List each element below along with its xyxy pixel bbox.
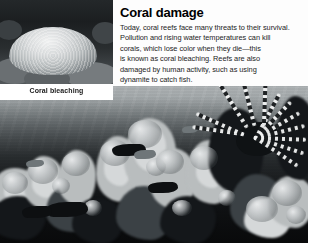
coral-polyp-texture <box>2 172 28 194</box>
page-margin-right <box>308 0 319 250</box>
body-line: Pollution and rising water temperatures … <box>120 33 300 43</box>
body-line: damaged by human activity, such as using <box>120 65 300 75</box>
reef-fish <box>46 202 88 217</box>
coral-polyp-texture <box>62 152 90 176</box>
lionfish <box>210 88 306 198</box>
reef-fish <box>26 160 44 167</box>
body-line: is known as coral bleaching. Reefs are a… <box>120 54 300 64</box>
page-margin-bottom <box>0 243 319 250</box>
coral-polyp-texture <box>156 150 184 174</box>
coral-polyp-texture <box>9 27 97 75</box>
article-body: Today, coral reefs face many threats to … <box>120 23 300 85</box>
article-text-panel: Coral damage Today, coral reefs face man… <box>113 0 308 86</box>
page-title: Coral damage <box>120 5 300 20</box>
inset-coral-bleaching-photo <box>0 0 113 84</box>
coral-polyp-texture <box>246 196 278 222</box>
body-line: dynamite to catch fish. <box>120 75 300 85</box>
magazine-page-spread: Coral bleaching Coral damage Today, cora… <box>0 0 319 250</box>
body-line: corals, which lose color when they die—t… <box>120 44 300 54</box>
coral-polyp-texture <box>52 178 70 194</box>
reef-fish <box>134 150 156 159</box>
coral-polyp-texture <box>172 200 192 216</box>
body-line: Today, coral reefs face many threats to … <box>120 23 300 33</box>
coral-polyp-texture <box>286 206 306 224</box>
reef-fish <box>22 206 52 218</box>
reef-fish <box>148 182 178 193</box>
inset-caption: Coral bleaching <box>0 86 113 96</box>
inset-rubble <box>92 22 113 44</box>
